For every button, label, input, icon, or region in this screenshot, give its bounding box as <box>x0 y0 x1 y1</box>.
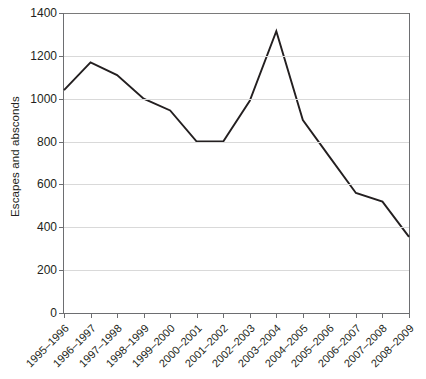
y-axis-tick <box>59 270 64 271</box>
x-axis-tick <box>409 313 410 318</box>
y-axis-tick <box>59 184 64 185</box>
x-axis-tick <box>329 313 330 318</box>
gridline <box>64 99 409 100</box>
gridline <box>64 227 409 228</box>
x-axis-tick <box>303 313 304 318</box>
y-axis-tick-label: 1200 <box>17 50 57 62</box>
y-axis-tick-label: 400 <box>17 221 57 233</box>
gridline <box>64 184 409 185</box>
y-axis-tick-label: 200 <box>17 264 57 276</box>
x-axis-tick <box>91 313 92 318</box>
y-axis-tick <box>59 227 64 228</box>
x-axis-tick <box>276 313 277 318</box>
y-axis-tick-label: 1000 <box>17 93 57 105</box>
y-axis-tick-label: 0 <box>17 307 57 319</box>
y-axis-tick-label: 600 <box>17 178 57 190</box>
plot-area <box>63 13 410 314</box>
x-axis-tick <box>144 313 145 318</box>
x-axis-tick <box>382 313 383 318</box>
x-axis-tick <box>356 313 357 318</box>
y-axis-tick-labels: 0200400600800100012001400 <box>13 0 57 379</box>
series-polyline <box>64 31 409 237</box>
x-axis-tick <box>250 313 251 318</box>
gridline <box>64 270 409 271</box>
y-axis-tick <box>59 56 64 57</box>
gridline <box>64 13 409 14</box>
y-axis-tick-label: 1400 <box>17 7 57 19</box>
y-axis-tick <box>59 142 64 143</box>
x-axis-tick <box>197 313 198 318</box>
y-axis-tick <box>59 99 64 100</box>
x-axis-tick <box>64 313 65 318</box>
data-line-series <box>64 13 409 313</box>
x-axis-tick <box>170 313 171 318</box>
x-axis-tick <box>117 313 118 318</box>
x-axis-tick <box>223 313 224 318</box>
gridline <box>64 56 409 57</box>
line-chart: Escapes and absconds 0200400600800100012… <box>0 0 426 379</box>
y-axis-tick <box>59 13 64 14</box>
gridline <box>64 142 409 143</box>
y-axis-tick-label: 800 <box>17 136 57 148</box>
